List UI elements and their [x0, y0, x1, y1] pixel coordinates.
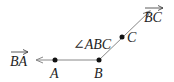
point-a [53, 58, 58, 63]
angle-label: ∠ABC [73, 37, 112, 52]
ray-bc-line [99, 11, 150, 60]
angle-diagram: A B C ∠ABC BA BC [0, 0, 174, 82]
vector-bc-label: BC [144, 10, 163, 25]
label-c: C [127, 30, 137, 45]
label-b: B [94, 66, 103, 81]
point-b [97, 58, 102, 63]
vector-ba-label: BA [10, 54, 28, 69]
point-c [120, 35, 125, 40]
label-a: A [49, 66, 59, 81]
